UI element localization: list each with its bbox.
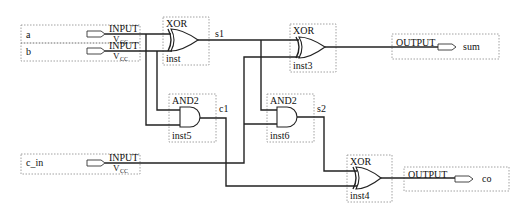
gate-and2-inst5-type: AND2 [172, 95, 199, 106]
and-gate-icon [277, 107, 297, 127]
output-co-label: co [482, 173, 491, 184]
output-pin-icon [455, 176, 473, 182]
and-gate-icon [180, 107, 200, 127]
xor-gate-icon [299, 37, 325, 58]
output-sum-label: sum [463, 41, 480, 52]
input-pin-icon [87, 160, 105, 166]
xor-gate-icon [356, 167, 381, 189]
gate-xor-inst-label: inst [166, 53, 181, 64]
gate-and2-inst6-type: AND2 [270, 95, 297, 106]
gate-and2-inst6[interactable]: AND2 inst6 [267, 94, 314, 142]
net-label-c1: c1 [219, 103, 228, 114]
gate-xor-inst3[interactable]: XOR inst3 [290, 24, 336, 72]
input-c-in-label: c_in [26, 157, 43, 168]
schematic-canvas: a INPUT V CC b INPUT V CC c_in INPUT V C… [0, 0, 522, 211]
input-c-in-type: INPUT [109, 152, 138, 163]
input-b-label: b [26, 46, 31, 57]
input-b-vcc-sub: CC [120, 56, 128, 62]
input-pin-icon [87, 48, 105, 54]
net-label-s2: s2 [317, 103, 326, 114]
input-b-type: INPUT [109, 40, 138, 51]
output-co[interactable]: OUTPUT co [404, 167, 509, 191]
gate-xor-inst3-label: inst3 [293, 60, 312, 71]
gate-xor-inst4-label: inst4 [350, 190, 369, 201]
input-a-type: INPUT [109, 23, 138, 34]
gate-xor-inst[interactable]: XOR inst [163, 17, 209, 65]
gate-xor-inst-type: XOR [166, 18, 187, 29]
gate-and2-inst5-label: inst5 [172, 130, 191, 141]
input-pin-icon [87, 31, 105, 37]
input-b-vcc: V [113, 51, 120, 61]
xor-gate-icon [171, 29, 198, 51]
gate-xor-inst3-type: XOR [293, 25, 314, 36]
gate-xor-inst4-type: XOR [350, 156, 371, 167]
input-c-in-vcc-sub: CC [120, 168, 128, 174]
net-label-s1: s1 [215, 28, 224, 39]
gate-and2-inst6-label: inst6 [270, 130, 289, 141]
xor-gate-curve [168, 29, 171, 51]
input-a-label: a [26, 29, 31, 40]
output-pin-icon [438, 44, 456, 50]
input-c-in-vcc: V [113, 163, 120, 173]
